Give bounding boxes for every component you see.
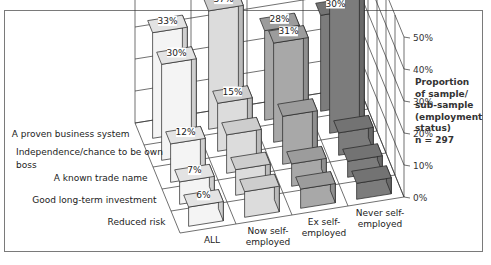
series-label: employed [358,219,403,229]
data-label: 6% [196,190,211,200]
bar [240,174,280,217]
data-label: 7% [187,165,202,175]
data-label: 15% [222,87,242,97]
category-label: Good long-term investment [32,195,157,205]
series-label: Ex self- [308,217,341,227]
series-label: Never self- [356,208,404,218]
category-label: boss [16,160,37,170]
category-label: Reduced risk [108,217,167,227]
series-label: employed [246,237,291,247]
series-label: ALL [204,235,220,245]
series-label: Now self- [247,226,288,236]
bars [148,0,392,226]
y-axis-title-line: sub-sample [415,100,487,112]
category-label: Independence/chance to be own [16,147,163,157]
bar [325,0,365,133]
data-label: 12% [175,127,195,137]
data-label: 31% [278,26,298,36]
bar [296,172,336,209]
y-axis-title-line: (employment [415,112,487,124]
data-label: 37% [213,0,233,4]
category-label: A known trade name [54,173,148,183]
category-label: A proven business system [12,129,130,139]
y-tick-label: 50% [413,33,433,43]
y-axis-title-line: status) [415,123,487,135]
y-axis-title: Proportion of sample/ sub-sample (employ… [415,77,487,146]
y-tick-label: 40% [413,65,433,75]
y-tick-label: 0% [413,193,428,203]
y-axis-title-line: of sample/ [415,89,487,101]
y-axis-title-line: Proportion [415,77,487,89]
data-label: 30% [166,48,186,58]
series-label: employed [302,228,347,238]
bar [352,166,392,200]
data-label: 30% [325,0,345,9]
y-tick-label: 10% [413,161,433,171]
data-label: 33% [157,16,177,26]
data-label: 28% [269,14,289,24]
sample-size-label: n = 297 [415,135,487,147]
